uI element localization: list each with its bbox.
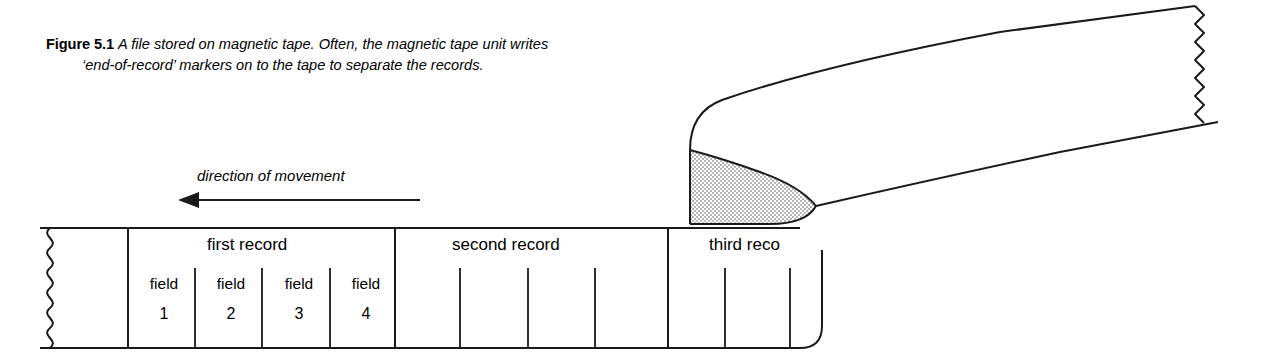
tape-right-torn-edge — [1195, 6, 1204, 123]
field-number: 2 — [202, 305, 260, 323]
field-number: 4 — [337, 305, 395, 323]
direction-arrow — [178, 192, 420, 208]
tape-underside-stipple — [690, 150, 816, 224]
tape-curved-section — [690, 6, 1218, 224]
tape-top-edge — [690, 6, 1195, 150]
record-label-second: second record — [452, 235, 560, 255]
field-word: field — [135, 275, 193, 293]
field-word: field — [270, 275, 328, 293]
figure-container: Figure 5.1 A file stored on magnetic tap… — [0, 0, 1283, 358]
field-word: field — [202, 275, 260, 293]
field-number: 3 — [270, 305, 328, 323]
field-number: 1 — [135, 305, 193, 323]
record-label-first: first record — [207, 235, 287, 255]
field-word: field — [337, 275, 395, 293]
record-label-third: third reco — [709, 235, 819, 255]
tape-lower-edge — [816, 122, 1218, 206]
